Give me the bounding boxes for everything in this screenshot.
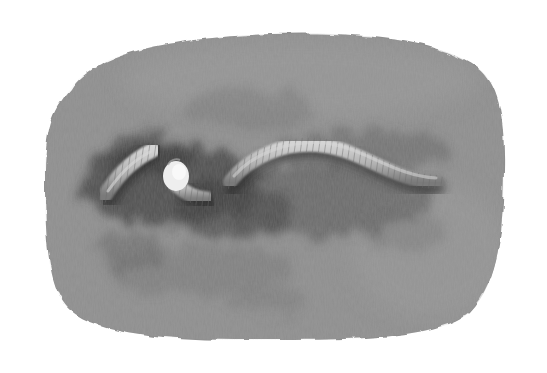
background-patch bbox=[0, 0, 547, 373]
worm-illustration bbox=[0, 0, 547, 373]
illustration-canvas bbox=[0, 0, 547, 373]
